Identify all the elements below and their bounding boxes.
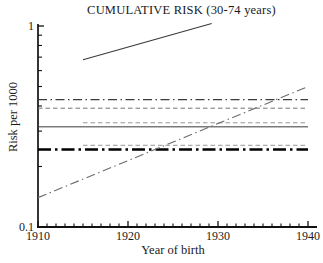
chart-title: CUMULATIVE RISK (30-74 years) [40, 3, 323, 18]
x-tick-label: 1940 [296, 229, 320, 243]
x-axis-label: Year of birth [38, 243, 308, 258]
x-tick-label: 1930 [206, 229, 230, 243]
y-tick-label: 1 [28, 19, 34, 33]
y-axis-label: Risk per 1000 [6, 82, 21, 152]
risk-line-chart: 10.11910192019301940 [0, 0, 323, 263]
cumulative-risk-figure: CUMULATIVE RISK (30-74 years) 10.1191019… [0, 0, 323, 263]
x-tick-label: 1910 [26, 229, 50, 243]
x-tick-label: 1920 [116, 229, 140, 243]
series-rising-dashdot-lower [38, 87, 308, 198]
series-rising-solid-upper [83, 23, 212, 59]
